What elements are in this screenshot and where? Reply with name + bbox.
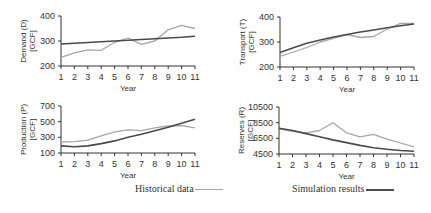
chart-transport: 2003004001234567891011YearTransport (T)[… <box>238 12 418 94</box>
x-tick-label: 7 <box>139 72 144 82</box>
y-tick-label: 300 <box>40 132 55 142</box>
x-tick-label: 6 <box>344 73 349 83</box>
x-tick-label: 8 <box>152 159 157 169</box>
x-tick-label: 7 <box>358 73 363 83</box>
x-tick-label: 9 <box>166 159 171 169</box>
x-tick-label: 8 <box>152 72 157 82</box>
y-tick-label: 10500 <box>248 102 273 112</box>
x-tick-label: 2 <box>290 160 295 170</box>
x-tick-label: 10 <box>396 73 406 83</box>
x-tick-label: 7 <box>139 159 144 169</box>
x-tick-label: 3 <box>85 72 90 82</box>
x-tick-label: 4 <box>99 72 104 82</box>
x-tick-label: 4 <box>317 160 322 170</box>
x-axis-label: Year <box>120 171 137 180</box>
x-tick-label: 11 <box>190 72 199 82</box>
y-tick-label: 100 <box>40 148 55 158</box>
x-tick-label: 9 <box>166 72 171 82</box>
y-tick-label: 300 <box>259 37 274 47</box>
x-axis-label: Year <box>120 84 137 93</box>
chart-production: 1003005007001234567891011YearProduction … <box>19 101 199 180</box>
x-tick-label: 10 <box>177 159 187 169</box>
y-tick-label: 400 <box>259 12 274 22</box>
historical-line-swatch <box>195 189 223 190</box>
x-tick-label: 1 <box>276 160 281 170</box>
x-tick-label: 5 <box>112 159 117 169</box>
x-tick-label: 3 <box>85 159 90 169</box>
x-tick-label: 3 <box>304 73 309 83</box>
simulation-series-line <box>61 119 195 146</box>
simulation-series-line <box>279 128 414 151</box>
y-tick-label: 200 <box>40 61 55 71</box>
x-tick-label: 1 <box>58 72 63 82</box>
y-tick-label: 8500 <box>253 118 273 128</box>
historical-series-line <box>280 23 414 56</box>
y-tick-label: 400 <box>40 11 55 21</box>
x-tick-label: 3 <box>303 160 308 170</box>
x-tick-label: 6 <box>125 72 130 82</box>
x-tick-label: 9 <box>385 73 390 83</box>
y-axis-label: Production (P)[GCF] <box>19 104 36 155</box>
simulation-line-swatch <box>366 189 394 191</box>
x-axis-label: Year <box>338 172 355 181</box>
simulation-series-line <box>280 24 414 53</box>
x-tick-label: 11 <box>409 160 418 170</box>
x-tick-label: 5 <box>112 72 117 82</box>
chart-demand: 2003004001234567891011YearDemand (D)[GCF… <box>19 11 199 93</box>
x-tick-label: 4 <box>318 73 323 83</box>
x-tick-label: 5 <box>330 160 335 170</box>
legend-historical: Historical data <box>135 183 223 194</box>
x-tick-label: 11 <box>409 73 418 83</box>
x-tick-label: 8 <box>371 160 376 170</box>
x-tick-label: 1 <box>58 159 63 169</box>
x-axis-label: Year <box>339 85 356 94</box>
y-axis-label: Demand (D)[GCF] <box>19 19 36 63</box>
chart-reserves: 450065008500105001234567891011YearReserv… <box>237 102 418 181</box>
legend-simulation-label: Simulation results <box>292 183 365 194</box>
y-axis-label: Transport (T)[GCF] <box>238 18 255 65</box>
y-axis-label: Reserves (R)[GCF] <box>237 107 254 154</box>
y-tick-label: 300 <box>40 36 55 46</box>
y-tick-label: 700 <box>40 101 55 111</box>
x-tick-label: 7 <box>357 160 362 170</box>
x-tick-label: 10 <box>177 72 187 82</box>
legend-simulation: Simulation results <box>292 183 394 194</box>
x-tick-label: 6 <box>344 160 349 170</box>
historical-series-line <box>61 126 195 142</box>
x-tick-label: 1 <box>277 73 282 83</box>
y-tick-label: 200 <box>259 62 274 72</box>
historical-series-line <box>61 25 195 57</box>
chart-grid: 2003004001234567891011YearDemand (D)[GCF… <box>0 0 431 213</box>
legend-historical-label: Historical data <box>135 183 194 194</box>
y-tick-label: 500 <box>40 117 55 127</box>
y-tick-label: 4500 <box>253 149 273 159</box>
x-tick-label: 8 <box>371 73 376 83</box>
x-tick-label: 2 <box>72 159 77 169</box>
x-tick-label: 10 <box>395 160 405 170</box>
x-tick-label: 2 <box>72 72 77 82</box>
x-tick-label: 11 <box>190 159 199 169</box>
x-tick-label: 5 <box>331 73 336 83</box>
x-tick-label: 2 <box>291 73 296 83</box>
y-tick-label: 6500 <box>253 133 273 143</box>
x-tick-label: 6 <box>125 159 130 169</box>
x-tick-label: 4 <box>99 159 104 169</box>
x-tick-label: 9 <box>384 160 389 170</box>
